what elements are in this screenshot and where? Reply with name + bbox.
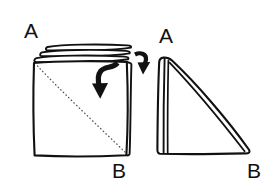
right-label-a: A <box>159 24 173 47</box>
square-face <box>33 61 127 156</box>
left-label-a: A <box>24 19 38 42</box>
spine-inner-edge <box>164 59 165 153</box>
folding-diagram: A B A B <box>0 0 275 192</box>
right-label-b: B <box>247 159 261 182</box>
left-label-b: B <box>112 159 126 182</box>
sheet-layer-group <box>34 44 131 62</box>
diagram-canvas: A B A B <box>0 0 275 192</box>
spine-outer-edge <box>168 60 169 153</box>
